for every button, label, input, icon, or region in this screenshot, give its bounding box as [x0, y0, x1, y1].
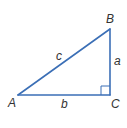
- side-label-b: b: [61, 97, 68, 111]
- vertex-label-b: B: [106, 12, 114, 26]
- side-label-a: a: [114, 54, 121, 68]
- side-label-c: c: [56, 49, 62, 63]
- side-c-hypotenuse: [18, 29, 110, 95]
- right-triangle-diagram: A B C c a b: [0, 0, 127, 128]
- vertex-label-a: A: [7, 96, 16, 110]
- right-angle-marker: [101, 86, 110, 95]
- vertex-label-c: C: [111, 97, 120, 111]
